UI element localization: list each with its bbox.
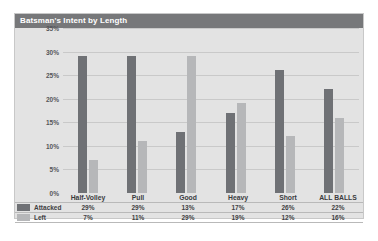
table-cell: 12% [263,213,313,223]
legend-swatch-attacked [17,204,30,211]
legend-label-attacked: Attacked [34,204,61,211]
table-cell: 19% [213,213,263,223]
bar-attacked-short[interactable] [275,70,284,193]
legend-row-left: Left [15,213,63,223]
table-header: Half-VolleyPullGoodHeavyShortALL BALLS [15,193,363,203]
bar-attacked-half-volley[interactable] [78,56,87,193]
chart-panel: Batsman's Intent by Length 0%5%10%15%20%… [14,13,364,219]
bar-groups [63,28,359,193]
data-table-region: Half-VolleyPullGoodHeavyShortALL BALLS A… [15,193,363,220]
column-header-short: Short [263,193,313,203]
bar-left-good[interactable] [187,56,196,193]
legend-swatch-left [17,214,30,221]
bar-group [162,28,211,193]
table-corner-cell [15,193,63,203]
bar-left-short[interactable] [286,136,295,193]
table-cell: 22% [313,203,363,213]
bar-group [260,28,309,193]
bar-group [211,28,260,193]
bar-left-half-volley[interactable] [89,160,98,193]
table-row: Attacked29%29%13%17%26%22% [15,203,363,213]
column-header-heavy: Heavy [213,193,263,203]
data-table: Half-VolleyPullGoodHeavyShortALL BALLS A… [15,193,363,223]
bar-left-heavy[interactable] [237,103,246,193]
table-cell: 7% [63,213,113,223]
table-body: Attacked29%29%13%17%26%22%Left7%11%29%19… [15,203,363,223]
column-header-all-balls: ALL BALLS [313,193,363,203]
bar-group [310,28,359,193]
bar-attacked-pull[interactable] [127,56,136,193]
chart-title-bar: Batsman's Intent by Length [15,14,363,28]
y-axis-tick-label: 25% [46,72,59,79]
plot-area [63,28,359,193]
table-cell: 17% [213,203,263,213]
bar-attacked-good[interactable] [176,132,185,193]
bar-left-all-balls[interactable] [335,118,344,193]
y-axis-tick-label: 15% [46,119,59,126]
table-cell: 11% [113,213,163,223]
y-axis-tick-label: 5% [50,166,59,173]
column-header-good: Good [163,193,213,203]
column-header-pull: Pull [113,193,163,203]
column-header-half-volley: Half-Volley [63,193,113,203]
legend-row-attacked: Attacked [15,203,63,213]
bar-attacked-all-balls[interactable] [324,89,333,193]
table-row: Left7%11%29%19%12%16% [15,213,363,223]
table-cell: 29% [63,203,113,213]
bar-group [112,28,161,193]
plot-region: 0%5%10%15%20%25%30%35% [15,28,363,193]
table-cell: 16% [313,213,363,223]
table-cell: 29% [113,203,163,213]
table-cell: 29% [163,213,213,223]
table-cell: 26% [263,203,313,213]
bar-group [63,28,112,193]
table-cell: 13% [163,203,213,213]
y-axis-tick-label: 20% [46,95,59,102]
y-axis: 0%5%10%15%20%25%30%35% [15,28,63,193]
bar-left-pull[interactable] [138,141,147,193]
legend-label-left: Left [34,214,46,221]
y-axis-tick-label: 30% [46,48,59,55]
y-axis-tick-label: 10% [46,142,59,149]
bar-attacked-heavy[interactable] [226,113,235,193]
table-header-row: Half-VolleyPullGoodHeavyShortALL BALLS [15,193,363,203]
y-axis-tick-label: 35% [46,25,59,32]
chart-title: Batsman's Intent by Length [20,16,127,25]
